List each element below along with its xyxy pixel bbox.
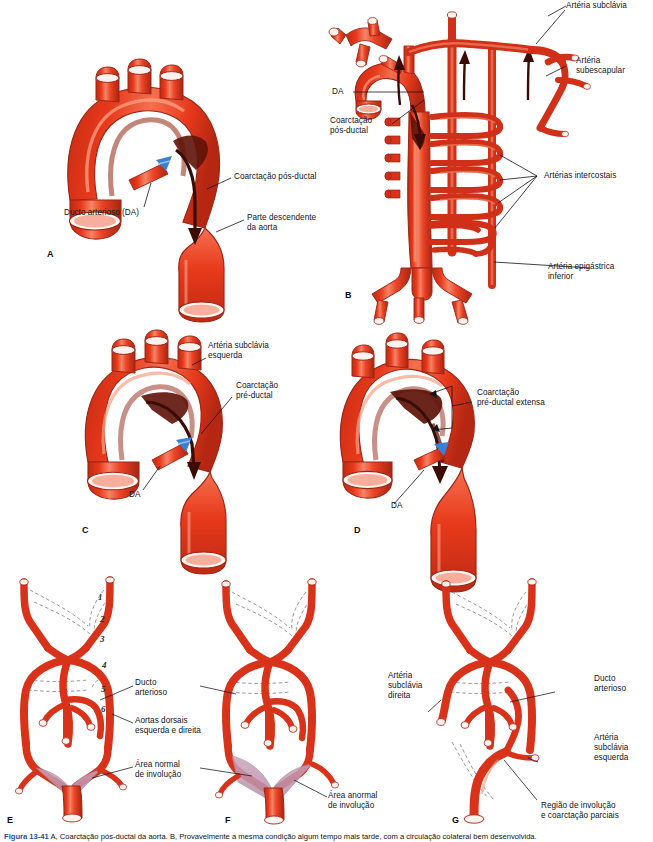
label-ducto-arterioso-e: Ducto arterioso [135,678,167,698]
figure-caption: Figura 13-41 A, Coarctação pós-ductal da… [4,832,652,842]
label-arteria-subescapular-b: Artéria subescapular [576,56,625,76]
label-arteria-subclavia-esquerda-c: Artéria subclávia esquerda [208,341,269,361]
arch-number-6: 6 [101,704,106,714]
panel-g-illustration [428,579,555,823]
arch-number-5: 5 [101,684,106,694]
label-regiao-involucao-coarctacao-g: Região de involução e coarctação parciai… [541,801,619,821]
panel-letter-f: F [225,815,231,825]
figure-caption-text: A, Coarctação pós-ductal da aorta. B, Pr… [50,832,536,841]
panel-letter-d: D [354,525,361,535]
label-coarctacao-pos-ductal-a: Coarctação pós-ductal [234,172,316,182]
arch-number-3: 3 [100,634,105,644]
panel-letter-c: C [82,525,89,535]
panel-letter-a: A [47,249,54,259]
panel-letter-e: E [7,815,13,825]
panel-letter-b: B [345,290,352,300]
panel-c-illustration [85,330,232,574]
panel-f-illustration [200,579,339,824]
arch-number-1: 1 [98,592,103,602]
label-coarctacao-pre-ductal-c: Coarctação pré-ductal [236,381,278,401]
label-da-b: DA [332,87,343,97]
panel-d-illustration [340,333,476,592]
panel-e-illustration [15,577,133,822]
label-area-normal-involucao-e: Área normal de involução [135,760,181,780]
label-aortas-dorsais-e: Aortas dorsais esquerda e direita [135,716,201,736]
label-arterias-intercostais-b: Artérias intercostais [544,171,616,181]
label-parte-descendente-aorta-a: Parte descendente da aorta [247,213,316,233]
label-ducto-arterioso-g: Ducto arterioso [594,674,626,694]
label-area-anormal-involucao-f: Área anormal de involução [328,791,377,811]
label-coarctacao-pre-ductal-extensa-d: Coarctação pré-ductal extensa [477,388,545,408]
label-coarctacao-pos-ductal-b: Coarctação pós-ductal [330,116,372,136]
illustration-canvas [0,0,653,842]
figure-caption-number: Figura 13-41 [4,832,49,841]
label-da-d: DA [391,501,402,511]
panel-letter-g: G [452,815,459,825]
arch-number-4: 4 [102,660,107,670]
panel-a-illustration [68,59,244,322]
label-da-c: DA [129,490,140,500]
label-arteria-subclavia-direita-g: Artéria subclávia direita [388,671,422,702]
arch-number-2: 2 [100,614,105,624]
label-arteria-epigastrica-inferior-b: Artéria epigástrica inferior [548,262,614,282]
label-arteria-subclavia-b: Artéria subclávia [566,1,627,11]
label-arteria-subclavia-esquerda-g: Artéria subclávia esquerda [594,733,628,764]
figure-coarctation-aorta: Coarctação pós-ductal Parte descendente … [0,0,653,842]
label-ducto-arterioso-da-a: Ducto arterioso (DA) [64,208,139,218]
